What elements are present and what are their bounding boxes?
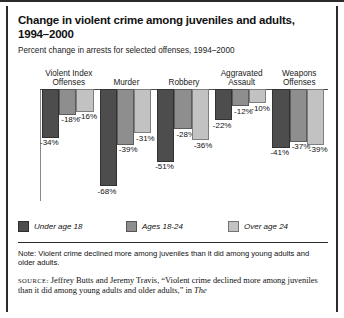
legend-swatch	[18, 221, 29, 232]
bar-value-label: -18%	[61, 115, 80, 124]
legend-label: Ages 18-24	[142, 222, 183, 231]
bar-group: -51%-28%-36%	[155, 89, 213, 207]
category-label-line: Offenses	[270, 78, 328, 88]
bar	[100, 89, 117, 186]
category-label: Murder	[98, 78, 156, 88]
legend-swatch	[228, 221, 239, 232]
bar-value-label: -39%	[309, 145, 328, 154]
bar	[76, 89, 93, 112]
legend-item: Under age 18	[18, 221, 82, 232]
bar-value-label: -34%	[40, 138, 59, 147]
plot-area: -34%-18%-16%-68%-39%-31%-51%-28%-36%-22%…	[18, 89, 328, 207]
category-label: Violent IndexOffenses	[40, 69, 98, 88]
figure-source: SOURCE: Jeffrey Butts and Jeremy Travis,…	[18, 276, 326, 297]
page-top-rule	[0, 0, 344, 5]
legend-item: Over age 24	[228, 221, 288, 232]
bar	[174, 89, 191, 129]
bar-value-label: -22%	[213, 121, 232, 130]
legend-label: Over age 24	[244, 222, 288, 231]
bar-value-label: -68%	[98, 187, 117, 196]
bar-group: -41%-37%-39%	[270, 89, 328, 207]
bar-value-label: -12%	[234, 107, 253, 116]
legend-item: Ages 18-24	[126, 221, 183, 232]
bar-group: -68%-39%-31%	[98, 89, 156, 207]
bar-value-label: -31%	[136, 134, 155, 143]
bar	[272, 89, 289, 148]
category-label-line: Robbery	[155, 78, 213, 88]
source-italic-tail: The	[194, 286, 207, 295]
category-axis-labels: Violent IndexOffensesMurderRobberyAggrav…	[18, 65, 328, 89]
bar	[215, 89, 232, 120]
bar	[59, 89, 76, 115]
category-label-line: Offenses	[40, 78, 98, 88]
bar-group: -34%-18%-16%	[40, 89, 98, 207]
bar	[290, 89, 307, 142]
page-title: Change in violent crime among juveniles …	[18, 14, 328, 41]
chart-legend: Under age 18Ages 18-24Over age 24	[18, 221, 328, 233]
category-label-line: Weapons	[270, 69, 328, 79]
bar-chart: Violent IndexOffensesMurderRobberyAggrav…	[18, 65, 328, 207]
bar	[134, 89, 151, 133]
bar-value-label: -16%	[78, 112, 97, 121]
bar-value-label: -51%	[155, 162, 174, 171]
footnote-divider	[18, 242, 328, 243]
bar	[232, 89, 249, 106]
source-label: SOURCE:	[18, 277, 49, 284]
source-text: Jeffrey Butts and Jeremy Travis, “Violen…	[18, 276, 318, 295]
legend-swatch	[126, 221, 137, 232]
figure-note: Note: Violent crime declined more among …	[18, 249, 326, 268]
category-label-line: Aggravated	[213, 69, 271, 79]
bar	[307, 89, 324, 145]
figure-page: Change in violent crime among juveniles …	[0, 0, 344, 318]
category-label-line: Assault	[213, 78, 271, 88]
bar-group: -22%-12%-10%	[213, 89, 271, 207]
bar-value-label: -10%	[251, 104, 270, 113]
category-label: Robbery	[155, 78, 213, 88]
bar	[117, 89, 134, 145]
category-label: WeaponsOffenses	[270, 69, 328, 88]
category-label-line: Murder	[98, 78, 156, 88]
bar	[192, 89, 209, 140]
category-label: AggravatedAssault	[213, 69, 271, 88]
legend-label: Under age 18	[34, 222, 82, 231]
bar-value-label: -41%	[270, 148, 289, 157]
category-label-line: Violent Index	[40, 69, 98, 79]
bar	[157, 89, 174, 162]
bar-value-label: -36%	[194, 141, 213, 150]
bar-value-label: -39%	[119, 145, 138, 154]
bar	[249, 89, 266, 103]
bar	[42, 89, 59, 138]
figure-content: Change in violent crime among juveniles …	[18, 14, 328, 312]
figure-subtitle: Percent change in arrests for selected o…	[18, 46, 328, 56]
